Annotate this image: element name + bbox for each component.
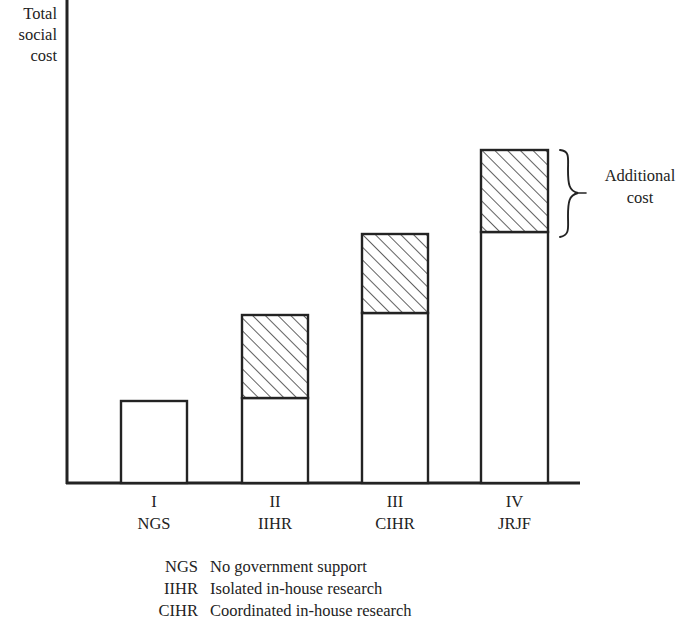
x-tick-abbr-iihr: IIHR: [242, 513, 308, 534]
x-tick-roman-ii: II: [242, 491, 308, 512]
legend-desc-iihr: Isolated in-house research: [210, 578, 382, 600]
x-tick-roman-iv: IV: [481, 491, 548, 512]
bar-group-iv-jrjf: [481, 150, 548, 483]
legend-row-ngs: NGS No government support: [0, 556, 688, 578]
legend-desc-cihr: Coordinated in-house research: [210, 600, 412, 622]
y-axis-title-line-2: social: [0, 24, 57, 45]
right-curly-brace-icon: [560, 150, 586, 237]
bar-additional-ii-iihr: [242, 315, 308, 398]
y-axis-title-line-1: Total: [0, 3, 57, 24]
bar-base-i-ngs: [121, 401, 187, 483]
x-tick-roman-i: I: [121, 491, 187, 512]
x-tick-abbr-cihr: CIHR: [362, 513, 428, 534]
legend-abbr-ngs: NGS: [0, 556, 210, 578]
bar-base-iii-cihr: [362, 313, 428, 483]
legend-key: NGS No government support IIHR Isolated …: [0, 556, 688, 622]
x-tick-abbr-ngs: NGS: [121, 513, 187, 534]
x-tick-abbr-jrjf: JRJF: [481, 513, 548, 534]
legend-row-cihr: CIHR Coordinated in-house research: [0, 600, 688, 622]
x-tick-roman-iii: III: [362, 491, 428, 512]
annotation-line-1: Additional: [594, 165, 686, 187]
legend-abbr-cihr: CIHR: [0, 600, 210, 622]
bar-chart-canvas: [0, 0, 688, 631]
bar-group-iii-cihr: [362, 234, 428, 483]
bar-group-ii-iihr: [242, 315, 308, 483]
bar-base-iv-jrjf: [481, 232, 548, 483]
bar-additional-iii-cihr: [362, 234, 428, 313]
legend-abbr-iihr: IIHR: [0, 578, 210, 600]
chart-figure: Total social cost I NGS II IIHR III CIHR…: [0, 0, 688, 631]
y-axis-title-line-3: cost: [0, 45, 57, 66]
bar-group-i-ngs: [121, 401, 187, 483]
y-axis-title: Total social cost: [0, 3, 57, 66]
additional-cost-annotation: Additional cost: [594, 165, 686, 209]
legend-desc-ngs: No government support: [210, 556, 367, 578]
bar-base-ii-iihr: [242, 398, 308, 483]
annotation-line-2: cost: [594, 187, 686, 209]
legend-row-iihr: IIHR Isolated in-house research: [0, 578, 688, 600]
bar-additional-iv-jrjf: [481, 150, 548, 232]
